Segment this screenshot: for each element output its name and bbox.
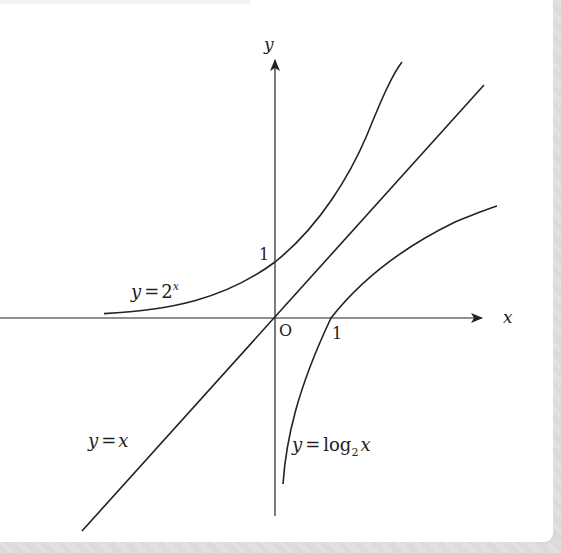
y-tick-label-1: 1 (259, 245, 269, 264)
origin-label: O (279, 321, 292, 340)
function-graph: y x O 1 1 y=2x y=x y=log2x (0, 0, 553, 542)
y-axis-label: y (263, 34, 274, 54)
frame-right-border (553, 0, 561, 553)
x-axis-label: x (503, 307, 513, 327)
exponential-curve (104, 62, 402, 314)
logarithm-label: y=log2x (291, 434, 371, 459)
exponential-label: y=2x (130, 280, 180, 302)
identity-line (82, 85, 484, 531)
x-tick-label-1: 1 (332, 324, 342, 343)
frame-bottom-border (0, 542, 561, 553)
identity-label: y=x (87, 430, 128, 451)
